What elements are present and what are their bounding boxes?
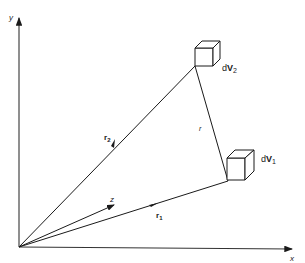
r2-arrow-icon — [111, 139, 115, 148]
volume-elements-diagram: y x z r1 r2 r dV2 dV1 — [0, 0, 305, 263]
x-axis: x — [19, 247, 295, 263]
r-label: r — [199, 125, 202, 132]
dV2-label: dV2 — [222, 63, 237, 74]
dV2-cube — [195, 41, 220, 66]
r1-label: r1 — [156, 211, 163, 221]
z-axis-label: z — [109, 195, 114, 204]
r-separation-line: r — [195, 66, 228, 181]
r1-arrow-icon — [149, 203, 158, 207]
y-axis: y — [8, 13, 19, 247]
r2-label: r2 — [104, 133, 111, 143]
dV1-cube — [227, 150, 254, 180]
y-axis-label: y — [8, 13, 14, 22]
r2-vector: r2 — [19, 66, 195, 247]
r1-vector: r1 — [19, 181, 228, 247]
dV1-label: dV1 — [261, 154, 276, 165]
x-axis-label: x — [289, 254, 295, 263]
